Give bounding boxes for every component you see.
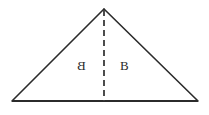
triangle-right-side-line (104, 9, 198, 101)
region-label-left: B (77, 59, 86, 72)
triangle-diagram-svg (0, 0, 209, 115)
triangle-figure: B B (0, 0, 209, 115)
region-label-right: B (120, 59, 129, 72)
triangle-left-side-line (12, 9, 104, 101)
